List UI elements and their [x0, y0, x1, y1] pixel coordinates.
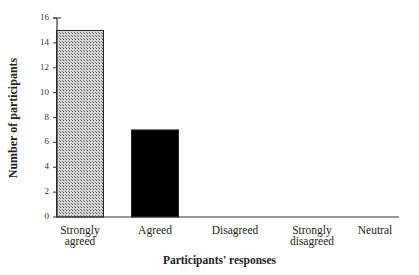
- y-tick-label: 4: [29, 161, 49, 171]
- y-tick-label: 16: [29, 12, 49, 22]
- y-tick-label: 14: [29, 37, 49, 47]
- y-tick-label: 8: [29, 112, 49, 122]
- x-tick-label: Agreed: [115, 225, 195, 236]
- x-tick-label: Neutral: [335, 225, 415, 236]
- y-tick-label: 10: [29, 87, 49, 97]
- y-tick-label: 12: [29, 62, 49, 72]
- y-tick-label: 0: [29, 211, 49, 221]
- y-tick-label: 6: [29, 136, 49, 146]
- bar-strongly-agreed: [57, 30, 104, 217]
- y-tick-label: 2: [29, 186, 49, 196]
- bar-chart: 0246810121416 StronglyagreedAgreedDisagr…: [0, 0, 419, 275]
- x-tick-label: Disagreed: [195, 225, 275, 236]
- x-axis-label: Participants' responses: [0, 254, 419, 266]
- bar-agreed: [132, 130, 179, 217]
- x-tick-label: Stronglyagreed: [40, 225, 120, 247]
